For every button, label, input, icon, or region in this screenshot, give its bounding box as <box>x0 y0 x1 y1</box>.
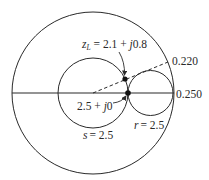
match-point-marker <box>125 90 131 96</box>
dashed-radial-line <box>93 62 168 93</box>
swr-label-var: s <box>83 129 88 141</box>
resistance-label-var: r <box>134 119 139 131</box>
match-label-tail: 0 <box>107 100 113 112</box>
load-point-marker <box>122 76 127 81</box>
resistance-label: r= 2.5 <box>134 119 164 131</box>
load-impedance-label: zL = 2.1 + j0.8 <box>81 38 147 52</box>
wavelength-load-label: 0.220 <box>172 55 198 67</box>
match-label-head: 2.5 + <box>77 100 104 112</box>
swr-label-val: = 2.5 <box>89 129 113 141</box>
resistance-label-val: = 2.5 <box>140 119 164 131</box>
load-label-eq: = 2.1 + <box>91 38 130 50</box>
load-label-arrow <box>119 52 125 75</box>
swr-label: s= 2.5 <box>83 129 113 141</box>
load-label-tail: 0.8 <box>133 38 148 50</box>
smith-chart-diagram: zL = 2.1 + j0.8 2.5 + j0 s= 2.5 r= 2.5 0… <box>0 0 209 180</box>
match-label-arrow <box>113 96 126 103</box>
match-point-label: 2.5 + j0 <box>77 100 113 113</box>
wavelength-max-label: 0.250 <box>176 88 202 100</box>
